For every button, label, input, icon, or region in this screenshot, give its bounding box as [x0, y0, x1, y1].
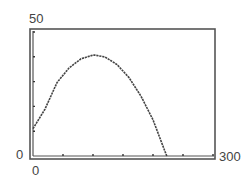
y-min-label: 0	[16, 148, 23, 161]
chart-frame	[30, 29, 215, 159]
axis-ticks	[33, 32, 213, 156]
x-max-label: 300	[219, 150, 241, 163]
y-max-label: 50	[29, 12, 43, 25]
data-curve	[33, 55, 167, 156]
plot-area	[0, 0, 246, 187]
x-min-label: 0	[32, 164, 39, 177]
